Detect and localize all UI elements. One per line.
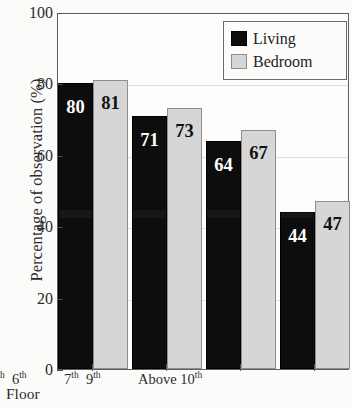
- scan-artifact: [59, 210, 92, 218]
- bar-living-1: 71: [132, 116, 167, 369]
- x-axis-tick-labels: 1st 6rd4th 6th7th 9thAbove 10th: [0, 371, 353, 395]
- y-axis-tick-labels: 100806040200: [3, 0, 53, 408]
- y-tick-label: 100: [7, 4, 53, 22]
- bar-value-label: 80: [59, 98, 92, 117]
- y-tick-label: 80: [7, 75, 53, 93]
- y-tick-label: 60: [7, 146, 53, 164]
- y-tick-mark: [57, 299, 63, 300]
- bar-group: 7173: [132, 14, 202, 369]
- bar-value-label: 44: [281, 227, 314, 246]
- x-tick-label: 7th 9th: [64, 371, 101, 388]
- living-swatch-icon: [231, 31, 247, 46]
- bar-living-2: 64: [206, 141, 241, 369]
- y-tick-mark: [57, 227, 63, 228]
- y-tick-label: 40: [7, 218, 53, 236]
- x-tick-mark: [166, 364, 167, 371]
- scan-artifact: [207, 210, 240, 218]
- y-tick-label: 20: [7, 289, 53, 307]
- bar-value-label: 73: [168, 122, 201, 141]
- bar-bedroom-2: 67: [241, 130, 276, 369]
- bar-chart-figure: Percentage of observation (%) 1008060402…: [0, 0, 353, 408]
- bar-living-3: 44: [280, 212, 315, 369]
- y-tick-mark: [57, 370, 63, 371]
- bar-living-0: 80: [58, 83, 93, 369]
- bedroom-swatch-icon: [231, 54, 247, 69]
- x-tick-mark: [92, 364, 93, 371]
- x-tick-mark: [240, 364, 241, 371]
- legend: Living Bedroom: [223, 21, 347, 80]
- plot-area: 8081717364674447 Living Bedroom: [57, 13, 349, 370]
- x-tick-label: Above 10th: [138, 371, 202, 388]
- bar-bedroom-3: 47: [315, 201, 350, 369]
- x-tick-label: 4th 6th: [0, 371, 27, 388]
- bar-value-label: 71: [133, 131, 166, 150]
- bar-value-label: 64: [207, 156, 240, 175]
- bar-bedroom-0: 81: [93, 80, 128, 369]
- legend-item-bedroom: Bedroom: [231, 50, 340, 73]
- y-tick-mark: [57, 84, 63, 85]
- legend-label-living: Living: [253, 30, 296, 48]
- scan-artifact: [133, 210, 166, 218]
- bar-group: 8081: [58, 14, 128, 369]
- bar-value-label: 47: [316, 215, 349, 234]
- bar-bedroom-1: 73: [167, 108, 202, 369]
- scan-artifact: [281, 210, 314, 218]
- bar-value-label: 81: [94, 94, 127, 113]
- bar-value-label: 67: [242, 144, 275, 163]
- legend-label-bedroom: Bedroom: [253, 53, 313, 71]
- x-tick-mark: [314, 364, 315, 371]
- legend-item-living: Living: [231, 27, 340, 50]
- y-tick-mark: [57, 13, 63, 14]
- y-tick-mark: [57, 156, 63, 157]
